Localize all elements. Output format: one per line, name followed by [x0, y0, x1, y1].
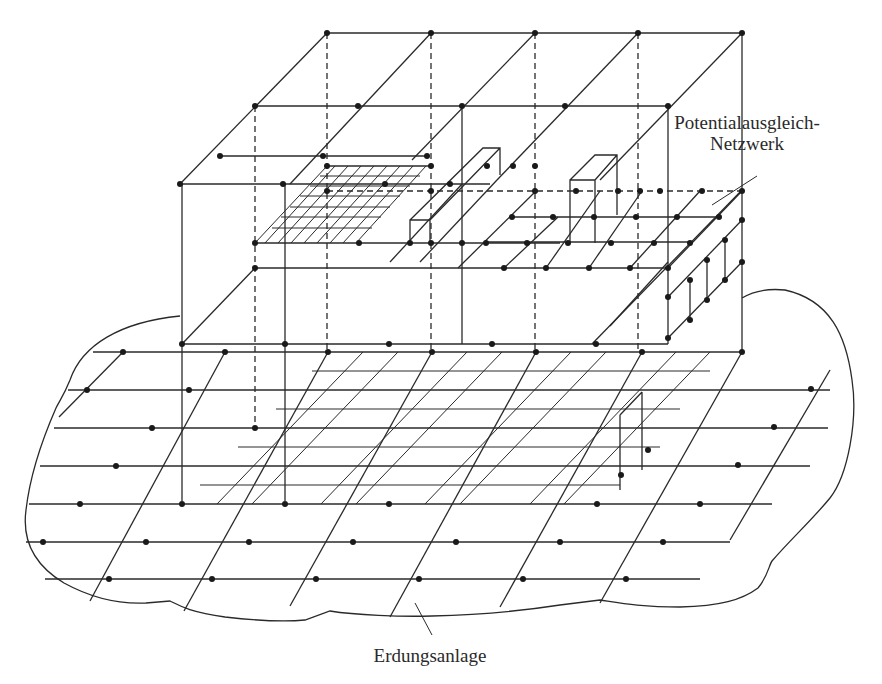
ground-grid-horizontal: [26, 352, 830, 579]
equipment-boxes: [410, 148, 642, 490]
bonding-network-diagram: [0, 0, 882, 684]
network-label: Potentialausgleich- Netzwerk: [622, 112, 872, 154]
earth-outline: [25, 289, 853, 621]
network-label-line2: Netzwerk: [622, 133, 872, 154]
network-label-line1: Potentialausgleich-: [622, 112, 872, 133]
hidden-columns: [255, 33, 742, 427]
fine-mesh: [255, 166, 426, 243]
earthing-leader-line: [415, 603, 432, 635]
earthing-label: Erdungsanlage: [330, 645, 530, 666]
